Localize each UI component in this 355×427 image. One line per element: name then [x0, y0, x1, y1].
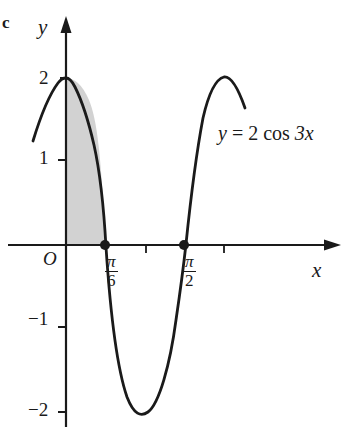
equation-function: cos — [263, 122, 290, 144]
equation-coefficient: 2 — [248, 122, 258, 144]
part-label: c — [2, 14, 10, 31]
y-axis-label: y — [38, 17, 47, 38]
y-tick-label-minus-1: −1 — [28, 309, 48, 328]
x-tick-label-pi-over-2: π 2 — [183, 253, 196, 291]
fraction-numerator: π — [105, 253, 118, 271]
equation-argument: 3x — [295, 122, 314, 144]
x-tick-label-pi-over-6: π 6 — [105, 253, 118, 291]
equation-lhs: y — [218, 122, 227, 144]
point-marker-pi-over-2 — [179, 240, 189, 250]
equation-relation: = — [232, 122, 243, 144]
y-tick-label-2: 2 — [39, 68, 49, 87]
figure-container: c y x O 2 1 −1 −2 π 6 π 2 y = 2 cos 3x — [0, 0, 355, 427]
fraction-denominator: 2 — [183, 272, 196, 291]
y-axis-arrowhead — [61, 16, 72, 33]
point-marker-pi-over-6 — [100, 240, 110, 250]
fraction-denominator: 6 — [105, 272, 118, 291]
y-tick-label-minus-2: −2 — [28, 400, 48, 419]
shaded-area-region — [66, 78, 105, 245]
graph-canvas — [0, 0, 355, 427]
y-tick-label-1: 1 — [39, 148, 49, 167]
x-axis-arrowhead — [324, 240, 341, 251]
x-axis-label: x — [312, 260, 321, 281]
curve-equation-label: y = 2 cos 3x — [218, 123, 314, 143]
origin-label: O — [43, 249, 57, 268]
fraction-numerator: π — [183, 253, 196, 271]
